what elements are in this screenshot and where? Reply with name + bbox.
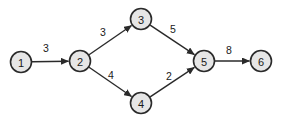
edge-weight-label: 3 [100, 26, 106, 38]
node-3: 3 [131, 9, 152, 30]
edge-weight-label: 3 [43, 42, 49, 54]
node-6: 6 [251, 51, 272, 72]
edges-layer [32, 25, 250, 97]
node-4: 4 [131, 93, 152, 114]
node-label: 1 [18, 57, 24, 69]
node-label: 2 [77, 56, 83, 68]
edge-weight-label: 5 [170, 23, 176, 35]
edge-4-5 [150, 67, 194, 97]
node-2: 2 [70, 51, 91, 72]
node-1: 1 [11, 52, 32, 73]
edge-1-2 [32, 61, 69, 62]
edge-weight-label: 2 [166, 70, 172, 82]
node-label: 4 [138, 98, 144, 110]
node-label: 3 [138, 14, 144, 26]
edge-weight-label: 4 [108, 69, 114, 81]
node-5: 5 [194, 51, 215, 72]
edge-2-3 [89, 26, 131, 55]
node-label: 5 [201, 56, 207, 68]
edge-weight-label: 8 [226, 44, 232, 56]
node-label: 6 [258, 56, 264, 68]
network-diagram: 334528 123456 [0, 0, 282, 121]
